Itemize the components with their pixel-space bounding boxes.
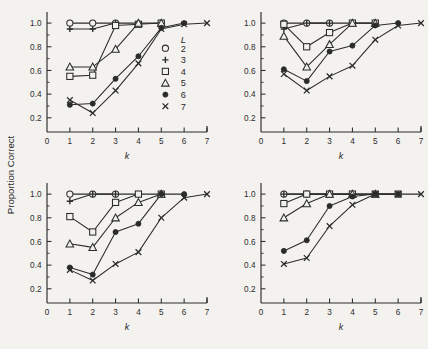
marker-cross — [304, 88, 310, 94]
series-markers-L7 — [67, 20, 210, 116]
marker-plus — [67, 26, 73, 32]
x-tick-label: 1 — [68, 308, 73, 317]
marker-plus — [67, 198, 73, 204]
x-tick-label: 4 — [136, 308, 141, 317]
series-line-L6 — [284, 23, 398, 81]
x-tick-label: 7 — [419, 137, 424, 146]
x-tick-label: 5 — [373, 137, 378, 146]
y-tick-label: 0.8 — [244, 43, 256, 52]
marker-filled-circle — [327, 203, 332, 208]
x-tick-label: 2 — [304, 137, 309, 146]
x-tick-label: 6 — [396, 137, 401, 146]
marker-open-square — [112, 199, 118, 205]
series-markers-L6 — [67, 21, 186, 108]
series-markers-L4 — [281, 191, 401, 207]
marker-cross — [372, 37, 378, 43]
marker-open-square — [281, 200, 287, 206]
y-tick-label: 1.0 — [244, 19, 256, 28]
x-axis-title: k — [339, 322, 344, 332]
x-tick-label: 7 — [419, 308, 424, 317]
series-markers-L7 — [281, 20, 424, 93]
series-markers-L3 — [67, 191, 142, 204]
marker-filled-circle — [136, 221, 141, 226]
legend-marker-6 — [163, 92, 168, 97]
figure-canvas: 0.20.40.60.81.001234567kL2345670.20.40.6… — [0, 0, 428, 349]
y-tick-label: 0.4 — [30, 90, 42, 99]
marker-filled-circle — [163, 92, 168, 97]
marker-open-square — [162, 68, 168, 74]
marker-cross — [158, 215, 164, 221]
marker-open-triangle — [162, 79, 170, 86]
series-line-L4 — [284, 194, 398, 203]
legend-label-3: 3 — [181, 55, 186, 65]
x-tick-label: 5 — [373, 308, 378, 317]
y-tick-label: 0.2 — [30, 114, 42, 123]
panel-bottom-left — [47, 183, 210, 303]
panel-bottom-right — [261, 183, 424, 303]
y-tick-label: 0.6 — [30, 67, 42, 76]
x-tick-label: 6 — [182, 308, 187, 317]
marker-filled-circle — [113, 76, 118, 81]
y-tick-label: 1.0 — [30, 190, 42, 199]
x-tick-label: 1 — [282, 308, 287, 317]
y-tick-label: 0.2 — [244, 114, 256, 123]
marker-open-square — [281, 21, 287, 27]
marker-open-triangle — [303, 200, 311, 207]
marker-cross — [327, 74, 333, 80]
marker-filled-circle — [304, 79, 309, 84]
marker-cross — [113, 88, 119, 94]
legend-label-7: 7 — [181, 102, 186, 112]
x-tick-label: 4 — [136, 137, 141, 146]
marker-plus — [90, 26, 96, 32]
marker-cross — [90, 278, 96, 284]
marker-filled-circle — [67, 102, 72, 107]
marker-cross — [136, 60, 142, 66]
x-tick-label: 7 — [205, 308, 210, 317]
x-tick-label: 0 — [259, 308, 264, 317]
legend-marker-3 — [162, 57, 168, 63]
x-tick-label: 4 — [350, 308, 355, 317]
legend-marker-2 — [162, 45, 168, 51]
series-line-L7 — [70, 194, 207, 280]
marker-open-triangle — [280, 32, 288, 39]
y-tick-label: 1.0 — [30, 19, 42, 28]
x-tick-label: 7 — [205, 137, 210, 146]
legend-label-6: 6 — [181, 90, 186, 100]
y-tick-label: 0.6 — [244, 67, 256, 76]
x-tick-label: 1 — [68, 137, 73, 146]
x-axis-title: k — [125, 151, 130, 161]
marker-open-circle — [67, 20, 73, 26]
marker-filled-circle — [373, 23, 378, 28]
x-tick-label: 5 — [159, 308, 164, 317]
x-tick-label: 0 — [45, 137, 50, 146]
marker-open-square — [326, 29, 332, 35]
marker-open-triangle — [280, 214, 288, 221]
x-tick-label: 0 — [259, 137, 264, 146]
marker-open-square — [112, 22, 118, 28]
series-line-L6 — [70, 194, 184, 274]
marker-filled-circle — [304, 238, 309, 243]
y-tick-label: 0.6 — [244, 238, 256, 247]
x-axis-title: k — [339, 151, 344, 161]
marker-filled-circle — [136, 54, 141, 59]
x-tick-label: 6 — [396, 308, 401, 317]
marker-open-square — [67, 73, 73, 79]
series-line-L3 — [70, 23, 139, 29]
y-tick-label: 0.2 — [244, 285, 256, 294]
legend-label-5: 5 — [181, 78, 186, 88]
marker-filled-circle — [281, 67, 286, 72]
marker-open-circle — [162, 45, 168, 51]
legend-marker-7 — [163, 103, 169, 109]
x-tick-label: 3 — [113, 308, 118, 317]
y-tick-label: 0.2 — [30, 285, 42, 294]
marker-open-square — [304, 44, 310, 50]
marker-plus — [162, 57, 168, 63]
series-markers-L6 — [281, 21, 400, 84]
x-tick-label: 5 — [159, 137, 164, 146]
legend-marker-5 — [162, 79, 170, 86]
marker-open-square — [90, 72, 96, 78]
x-tick-label: 6 — [182, 137, 187, 146]
marker-open-square — [67, 213, 73, 219]
marker-filled-circle — [159, 192, 164, 197]
x-tick-label: 3 — [113, 137, 118, 146]
